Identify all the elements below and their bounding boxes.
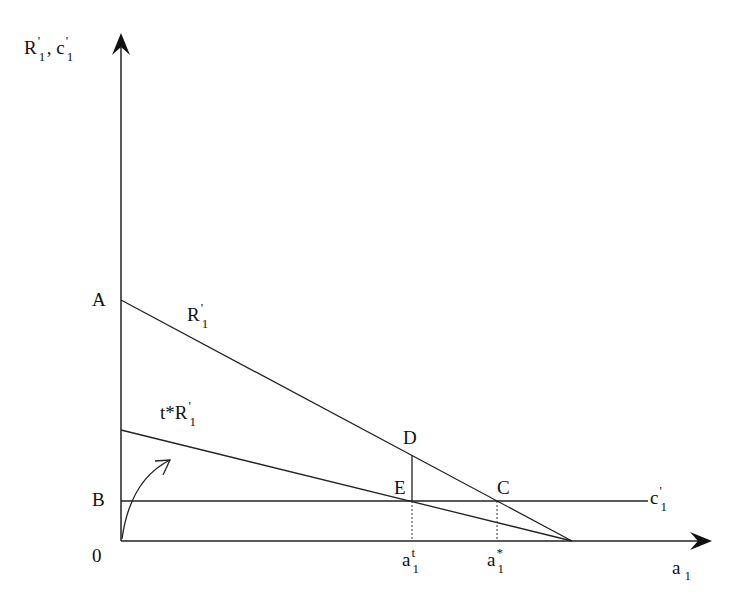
at-main: a: [402, 549, 410, 570]
point-e-label: E: [394, 478, 406, 497]
c1-label-main: c: [650, 487, 658, 508]
y-label-c-prime: ': [66, 34, 68, 47]
c1-label-prime: ': [659, 484, 661, 497]
x-tick-at-label: at1: [402, 550, 420, 570]
r1-label-prime: ': [201, 301, 203, 314]
point-d-label: D: [403, 428, 417, 447]
rotation-curved-arrow: [122, 460, 170, 539]
t-r1-prime-label: t*R'1: [160, 403, 197, 423]
point-c-label: C: [497, 478, 510, 497]
tr1-label-sub: 1: [189, 415, 196, 428]
point-a-label: A: [92, 290, 106, 309]
c1-label-sub: 1: [660, 500, 667, 513]
at-sup: t: [411, 546, 415, 559]
y-label-c-sub: 1: [67, 50, 74, 63]
y-label-r-sub: 1: [39, 50, 46, 63]
x-axis-label: a1: [672, 558, 691, 577]
r1-label-sub: 1: [202, 317, 209, 330]
diagram-canvas: [0, 0, 736, 600]
y-label-r: R: [24, 37, 37, 58]
tr1-label-main: t*R: [160, 402, 187, 423]
tr1-label-prime: ': [188, 399, 190, 412]
r1-label-main: R: [187, 304, 200, 325]
x-label-main: a: [672, 557, 680, 578]
astar-main: a: [487, 549, 495, 570]
astar-sup: *: [496, 546, 503, 559]
x-label-sub: 1: [684, 568, 691, 583]
origin-label: 0: [92, 546, 102, 565]
y-label-c: c: [56, 37, 64, 58]
point-b-label: B: [92, 490, 105, 509]
y-label-r-prime: ': [38, 34, 40, 47]
at-sub: 1: [412, 562, 419, 575]
x-tick-astar-label: a*1: [487, 550, 505, 570]
c1-prime-label: c'1: [650, 488, 668, 508]
astar-sub: 1: [497, 562, 504, 575]
y-label-sep: ,: [47, 37, 57, 58]
r1-prime-label: R'1: [187, 305, 210, 325]
y-axis-label: R'1, c'1: [24, 38, 75, 58]
